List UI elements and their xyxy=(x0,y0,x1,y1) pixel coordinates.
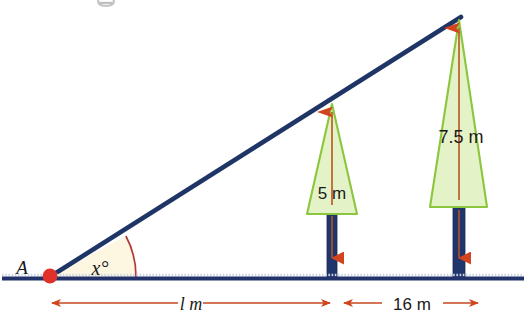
gap-distance-label: 16 m xyxy=(393,295,431,314)
cut-off-glyph-remnant xyxy=(98,0,114,6)
far-tree xyxy=(430,20,487,278)
near-tree-height-label: 5 m xyxy=(318,184,346,203)
base-distance-label: l m xyxy=(180,294,203,314)
angle-label: x° xyxy=(91,257,109,279)
far-tree-height-label: 7.5 m xyxy=(438,127,483,147)
vertex-label: A xyxy=(14,257,28,278)
diagram-canvas: A x° 5 m 7.5 m l m 16 m xyxy=(0,0,527,326)
vertex-dot xyxy=(43,269,58,284)
sight-line xyxy=(48,17,461,278)
geometry-diagram: A x° 5 m 7.5 m l m 16 m xyxy=(0,0,527,326)
